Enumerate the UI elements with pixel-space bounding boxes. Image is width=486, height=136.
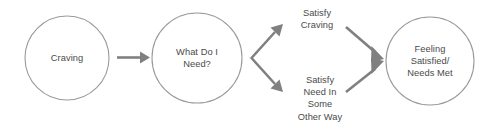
- diagram-canvas: Craving What Do I Need? Feeling Satisfie…: [0, 0, 486, 136]
- connector-satisfy-other-to-feeling-icon: [346, 58, 384, 92]
- connector-craving-to-need-icon: [117, 52, 150, 64]
- node-craving-circle[interactable]: [25, 16, 109, 100]
- connector-need-branch-icon: [251, 24, 283, 92]
- node-what-do-i-need-circle[interactable]: [152, 13, 242, 103]
- connector-satisfy-craving-to-feeling-icon: [346, 27, 384, 62]
- node-feeling-satisfied-circle[interactable]: [386, 17, 474, 105]
- flowchart-graphics: [0, 0, 486, 136]
